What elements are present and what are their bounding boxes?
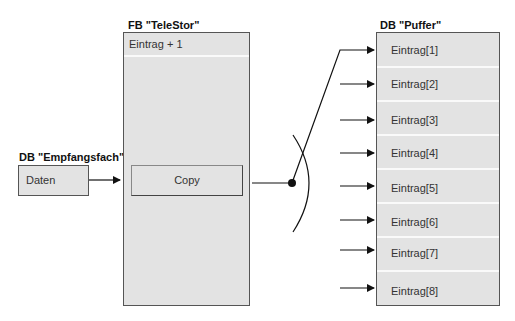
copy-block: Copy: [131, 165, 243, 196]
buffer-entry-8: Eintrag[8]: [377, 272, 499, 306]
buffer-entry-6: Eintrag[6]: [377, 204, 499, 238]
buffer-db-title: DB "Puffer": [380, 19, 441, 31]
buffer-entry-1: Eintrag[1]: [377, 33, 499, 68]
buffer-entry-4: Eintrag[4]: [377, 136, 499, 170]
fb-telestor-box: Eintrag + 1 Copy: [123, 32, 250, 306]
buffer-entry-5: Eintrag[5]: [377, 170, 499, 204]
receiver-db-title: DB "Empfangsfach": [19, 151, 124, 163]
fb-title: FB "TeleStor": [128, 19, 199, 31]
fb-counter-label: Eintrag + 1: [129, 38, 183, 50]
buffer-db-box: Eintrag[1] Eintrag[2] Eintrag[3] Eintrag…: [376, 32, 500, 306]
buffer-entry-3: Eintrag[3]: [377, 102, 499, 136]
receiver-data-label: Daten: [26, 174, 55, 186]
receiver-data-box: Daten: [18, 165, 89, 196]
switch-arm-arrow: [292, 50, 374, 183]
fb-counter-row: Eintrag + 1: [124, 33, 249, 57]
buffer-entry-2: Eintrag[2]: [377, 68, 499, 102]
buffer-entry-7: Eintrag[7]: [377, 238, 499, 272]
